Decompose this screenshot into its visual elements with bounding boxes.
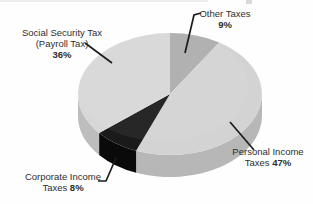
label-personal-income: Personal Income Taxes 47% bbox=[232, 146, 303, 168]
label-corporate-income-line1: Corporate Income bbox=[25, 171, 101, 182]
label-other-taxes: Other Taxes 9% bbox=[199, 8, 250, 30]
label-corporate-income-pct: 8% bbox=[70, 182, 84, 193]
label-personal-income-pct: 47% bbox=[272, 157, 291, 168]
label-social-security-pct: 36% bbox=[52, 49, 71, 60]
label-social-security-line1: Social Security Tax bbox=[22, 27, 102, 38]
label-social-security-line2: (Payroll Tax) bbox=[36, 38, 89, 49]
label-other-taxes-pct: 9% bbox=[218, 19, 232, 30]
label-other-taxes-line1: Other Taxes bbox=[199, 8, 250, 19]
label-corporate-income-line2: Taxes bbox=[42, 182, 67, 193]
label-social-security: Social Security Tax (Payroll Tax) 36% bbox=[22, 27, 102, 60]
label-corporate-income: Corporate Income Taxes 8% bbox=[25, 171, 101, 193]
label-personal-income-line2: Taxes bbox=[245, 157, 270, 168]
pie-chart-figure: Social Security Tax (Payroll Tax) 36% Ot… bbox=[0, 0, 313, 204]
label-personal-income-line1: Personal Income bbox=[232, 146, 303, 157]
